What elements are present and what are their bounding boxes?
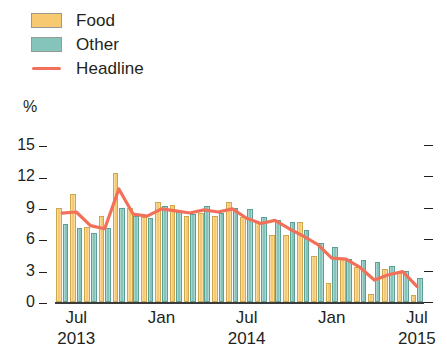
x-tick-jan-3: Jan	[318, 308, 345, 328]
y-tick-right-dash-icon	[424, 302, 433, 303]
x-tick-jul-2014: Jul2014	[228, 308, 266, 349]
x-tick-month: Jul	[406, 308, 428, 327]
chart-plot-area: % 15129630 Jul2013JanJul2014JanJul2015	[0, 0, 447, 349]
x-tick-year: 2013	[57, 328, 95, 349]
y-tick-right-dash-icon	[424, 271, 433, 272]
x-tick-month: Jul	[65, 308, 87, 327]
x-tick-jul-2015: Jul2015	[398, 308, 436, 349]
y-tick-right-dash-icon	[424, 145, 433, 146]
x-tick-month: Jul	[236, 308, 258, 327]
x-tick-jul-2013: Jul2013	[57, 308, 95, 349]
x-tick-month: Jan	[148, 308, 175, 327]
x-axis-tick-labels: Jul2013JanJul2014JanJul2015	[0, 0, 447, 349]
x-tick-year: 2015	[398, 328, 436, 349]
x-tick-jan-1: Jan	[148, 308, 175, 328]
x-tick-month: Jan	[318, 308, 345, 327]
y-tick-right-dash-icon	[424, 239, 433, 240]
x-tick-year: 2014	[228, 328, 266, 349]
y-tick-right-dash-icon	[424, 176, 433, 177]
y-tick-right-dash-icon	[424, 208, 433, 209]
